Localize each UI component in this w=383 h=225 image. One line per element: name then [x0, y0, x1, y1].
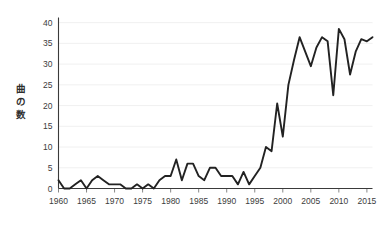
x-tick-label: 1975	[133, 196, 152, 206]
y-tick-label: 35	[43, 38, 53, 48]
x-tick-label: 2015	[357, 196, 376, 206]
x-tick-label: 1990	[217, 196, 236, 206]
x-tick-label: 2010	[329, 196, 348, 206]
x-tick-label: 1965	[77, 196, 96, 206]
gridlines	[59, 23, 373, 168]
y-tick-label: 5	[48, 163, 53, 173]
chart-plot-svg: 0510152025303540 19601965197019751980198…	[0, 0, 383, 225]
y-tick-label: 20	[43, 101, 53, 111]
x-tick-label: 1970	[105, 196, 124, 206]
x-tick-label: 2005	[301, 196, 320, 206]
y-axis-ticks: 0510152025303540	[43, 18, 53, 194]
y-tick-label: 30	[43, 59, 53, 69]
y-tick-label: 10	[43, 142, 53, 152]
y-tick-label: 0	[48, 184, 53, 194]
y-tick-label: 25	[43, 80, 53, 90]
x-axis-ticks: 1960196519701975198019851990199520002005…	[49, 189, 377, 206]
x-tick-label: 1985	[189, 196, 208, 206]
line-chart-container: 曲 の 数 0510152025303540 19601965197019751…	[0, 0, 383, 225]
x-tick-label: 1995	[245, 196, 264, 206]
data-series-line	[59, 29, 373, 189]
x-tick-label: 2000	[273, 196, 292, 206]
y-tick-label: 15	[43, 121, 53, 131]
x-tick-label: 1960	[49, 196, 68, 206]
x-tick-label: 1980	[161, 196, 180, 206]
y-tick-label: 40	[43, 18, 53, 28]
